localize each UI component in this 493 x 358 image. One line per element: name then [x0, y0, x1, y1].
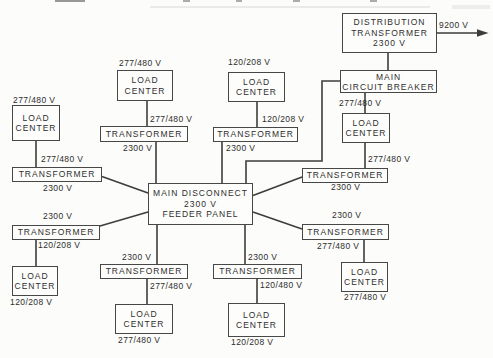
node-load-center-right-upper: LOAD CENTER	[342, 113, 390, 143]
node-line: MAIN DISCONNECT	[153, 188, 248, 199]
node-transformer-bottom-right: TRANSFORMER	[213, 264, 302, 279]
voltage-label-9200v: 9200 V	[439, 21, 468, 30]
node-line: CENTER	[125, 86, 166, 97]
node-line: TRANSFORMER	[106, 129, 183, 140]
node-load-center-bottom-right: LOAD CENTER	[228, 303, 285, 337]
voltage-label: 120/208 V	[228, 58, 270, 67]
node-line: CENTER	[236, 320, 277, 331]
node-line: 2300 V	[184, 199, 217, 210]
voltage-label: 2300 V	[43, 184, 72, 193]
node-line: TRANSFORMER	[351, 28, 428, 39]
node-transformer-top-mid: TRANSFORMER	[213, 127, 298, 142]
node-load-center-left: LOAD CENTER	[12, 105, 60, 141]
voltage-label: 2300 V	[122, 253, 151, 262]
arrow-head-icon	[477, 29, 489, 37]
voltage-label: 277/480 V	[13, 96, 55, 105]
node-line: LOAD	[243, 310, 270, 321]
voltage-label: 277/480 V	[344, 293, 386, 302]
node-load-center-top-mid: LOAD CENTER	[228, 72, 285, 102]
voltage-label: 277/480 V	[119, 59, 161, 68]
node-line: LOAD	[130, 309, 157, 320]
voltage-label: 120/208 V	[262, 115, 304, 124]
node-line: MAIN	[376, 72, 401, 82]
node-load-center-top-left: LOAD CENTER	[117, 70, 173, 101]
voltage-label: 2300 V	[331, 183, 360, 192]
node-line: TRANSFORMER	[19, 169, 96, 180]
voltage-label: 277/480 V	[339, 99, 381, 108]
node-line: CIRCUIT BREAKER	[342, 82, 434, 92]
node-transformer-bottom-left: TRANSFORMER	[100, 264, 188, 279]
node-transformer-left-mid: TRANSFORMER	[12, 167, 102, 182]
voltage-label: 120/208 V	[231, 338, 273, 347]
voltage-label: 277/480 V	[150, 115, 192, 124]
node-line: LOAD	[21, 271, 48, 282]
wire-feeder-to-tf-right-upper	[253, 177, 302, 196]
voltage-label: 2300 V	[43, 212, 72, 221]
wire-feeder-to-tf-left-lower	[100, 212, 148, 226]
node-line: TRANSFORMER	[106, 266, 183, 277]
voltage-label: 2300 V	[332, 211, 361, 220]
node-line: TRANSFORMER	[307, 170, 384, 181]
node-line: LOAD	[352, 118, 379, 129]
node-line: LOAD	[131, 75, 158, 86]
node-transformer-right-lower: TRANSFORMER	[302, 224, 389, 240]
voltage-label: 277/480 V	[41, 155, 83, 164]
node-transformer-right-upper: TRANSFORMER	[302, 168, 388, 183]
voltage-label: 277/480 V	[150, 282, 192, 291]
node-main-disconnect-feeder-panel: MAIN DISCONNECT 2300 V FEEDER PANEL	[148, 183, 253, 225]
node-load-center-right-lower: LOAD CENTER	[341, 262, 388, 292]
voltage-label: 2300 V	[248, 253, 277, 262]
node-line: DISTRIBUTION	[354, 17, 426, 28]
node-line: TRANSFORMER	[219, 266, 296, 277]
voltage-label: 120/480 V	[260, 281, 302, 290]
node-line: FEEDER PANEL	[162, 209, 238, 220]
voltage-label: 277/480 V	[118, 336, 160, 345]
node-line: LOAD	[243, 77, 270, 88]
wire-tf-left-mid-to-feeder	[102, 177, 148, 194]
node-line: CENTER	[346, 128, 387, 139]
voltage-label: 277/480 V	[368, 155, 410, 164]
voltage-label: 277/480 V	[317, 242, 359, 251]
node-line: TRANSFORMER	[217, 129, 294, 140]
node-line: LOAD	[351, 267, 378, 278]
node-line: CENTER	[344, 277, 385, 288]
node-transformer-top-left: TRANSFORMER	[100, 126, 188, 142]
node-main-circuit-breaker: MAIN CIRCUIT BREAKER	[340, 70, 437, 93]
node-line: 2300 V	[373, 38, 406, 49]
node-line: LOAD	[22, 113, 49, 124]
node-line: TRANSFORMER	[18, 227, 95, 238]
voltage-label: 120/208 V	[38, 241, 80, 250]
node-load-center-left-lower: LOAD CENTER	[12, 266, 58, 296]
node-distribution-transformer: DISTRIBUTION TRANSFORMER 2300 V	[342, 13, 437, 53]
diagram-page: DISTRIBUTION TRANSFORMER 2300 V MAIN CIR…	[0, 0, 493, 358]
node-line: TRANSFORMER	[307, 227, 384, 238]
node-line: CENTER	[16, 123, 57, 134]
voltage-label: 2300 V	[123, 144, 152, 153]
node-line: CENTER	[15, 281, 56, 292]
node-line: CENTER	[124, 319, 165, 330]
node-load-center-bottom-left: LOAD CENTER	[115, 304, 173, 334]
voltage-label: 120/208 V	[10, 298, 52, 307]
node-transformer-left-lower: TRANSFORMER	[12, 225, 100, 240]
node-line: CENTER	[236, 87, 277, 98]
wire-feeder-to-tf-right-lower	[253, 212, 302, 229]
voltage-label: 2300 V	[226, 144, 255, 153]
